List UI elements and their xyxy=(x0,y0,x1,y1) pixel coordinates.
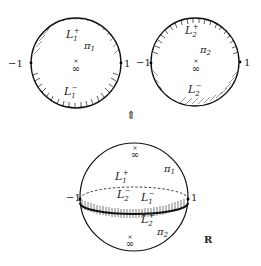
label-one: 1 xyxy=(124,58,130,69)
label-l2-minus: L2− xyxy=(187,82,202,98)
point-one xyxy=(187,198,190,201)
label-infinity: ∞ xyxy=(72,63,80,74)
label-l1-plus: L1+ xyxy=(65,27,80,43)
equivalence-arrow-icon: ⇕ xyxy=(126,109,135,122)
label-l2-plus: L2+ xyxy=(184,23,199,39)
sphere: −1 1 × ∞ L1+ π1 L2− L1− L2+ π2 × ∞ R xyxy=(66,143,213,251)
label-infinity-top: ∞ xyxy=(131,149,139,160)
label-space-r: R xyxy=(204,234,213,245)
left-disc: −1 1 L1+ π1 × ∞ L1− xyxy=(8,14,130,108)
point-one xyxy=(120,62,123,65)
label-one: 1 xyxy=(191,192,197,203)
equator-back xyxy=(80,187,188,199)
label-minus-one: −1 xyxy=(66,192,81,203)
point-minus-one xyxy=(30,62,33,65)
equator-hatching xyxy=(82,199,184,218)
point-one xyxy=(239,61,242,64)
diagram-canvas: −1 1 L1+ π1 × ∞ L1− −1 1 L2+ π2 × ∞ L2− … xyxy=(0,0,261,266)
label-l2-minus: L2− xyxy=(116,187,131,203)
label-l2-plus: L2+ xyxy=(140,212,155,228)
label-l1-minus: L1− xyxy=(140,190,155,206)
label-l1-plus: L1+ xyxy=(114,169,129,185)
label-one: 1 xyxy=(244,57,250,68)
label-pi1: π1 xyxy=(83,40,95,53)
label-infinity-bottom: ∞ xyxy=(126,238,134,249)
label-minus-one: −1 xyxy=(8,58,23,69)
label-pi1: π1 xyxy=(163,163,175,176)
right-disc: −1 1 L2+ π2 × ∞ L2− xyxy=(136,18,250,107)
label-pi2: π2 xyxy=(199,44,212,57)
label-pi2: π2 xyxy=(156,226,169,239)
label-l1-minus: L1− xyxy=(63,84,78,100)
label-infinity: ∞ xyxy=(192,63,200,74)
label-minus-one: −1 xyxy=(136,57,151,68)
